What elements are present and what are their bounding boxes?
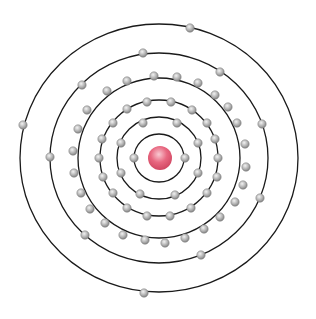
electron-shell-4 — [173, 73, 181, 81]
electron-shell-2 — [136, 190, 144, 198]
electron-shell-4 — [141, 236, 149, 244]
electron-shell-4 — [242, 163, 250, 171]
electron-shell-3 — [95, 154, 103, 162]
electron-shell-3 — [203, 189, 211, 197]
electron-shell-3 — [143, 98, 151, 106]
electron-shell-4 — [239, 181, 247, 189]
electron-shell-5 — [139, 49, 147, 57]
electron-shell-2 — [139, 119, 147, 127]
electron-shell-5 — [197, 251, 205, 259]
electron-shell-5 — [78, 81, 86, 89]
electron-shell-3 — [203, 119, 211, 127]
electron-shell-3 — [98, 135, 106, 143]
electron-shell-4 — [216, 213, 224, 221]
nucleus-sphere — [148, 146, 172, 170]
electron-shell-4 — [123, 77, 131, 85]
electron-shell-2 — [117, 139, 125, 147]
electron-shell-4 — [241, 140, 249, 148]
electron-shell-2 — [173, 119, 181, 127]
electron-shell-4 — [69, 147, 77, 155]
electron-shell-3 — [109, 119, 117, 127]
electron-shell-1 — [181, 154, 189, 162]
electron-shell-4 — [200, 225, 208, 233]
electron-shell-4 — [70, 169, 78, 177]
electron-shell-3 — [188, 106, 196, 114]
electron-shell-3 — [211, 135, 219, 143]
electron-shell-3 — [167, 98, 175, 106]
electron-shell-4 — [119, 231, 127, 239]
electron-shell-6 — [19, 121, 27, 129]
electron-shell-3 — [187, 204, 195, 212]
electron-shell-4 — [224, 103, 232, 111]
electron-shell-4 — [233, 119, 241, 127]
electron-shell-4 — [83, 106, 91, 114]
electron-shell-1 — [130, 154, 138, 162]
electron-shell-4 — [77, 189, 85, 197]
electron-shell-4 — [181, 234, 189, 242]
electron-shell-4 — [231, 198, 239, 206]
electron-shell-4 — [101, 219, 109, 227]
electron-shell-2 — [194, 139, 202, 147]
electrons — [19, 24, 266, 297]
electron-shell-3 — [123, 204, 131, 212]
electron-shell-3 — [214, 154, 222, 162]
electron-shell-4 — [86, 205, 94, 213]
electron-shell-3 — [109, 189, 117, 197]
electron-shell-3 — [213, 173, 221, 181]
nucleus — [148, 146, 172, 170]
electron-shell-4 — [211, 91, 219, 99]
electron-shell-5 — [258, 120, 266, 128]
electron-shell-6 — [140, 289, 148, 297]
electron-shell-3 — [99, 173, 107, 181]
electron-shell-3 — [166, 212, 174, 220]
electron-shell-3 — [123, 105, 131, 113]
electron-shell-2 — [117, 169, 125, 177]
electron-shell-5 — [46, 153, 54, 161]
bohr-atom-diagram — [0, 0, 316, 319]
electron-shell-2 — [194, 169, 202, 177]
electron-shell-5 — [256, 194, 264, 202]
electron-shell-5 — [81, 231, 89, 239]
electron-shell-4 — [74, 125, 82, 133]
electron-shell-4 — [161, 239, 169, 247]
electron-shell-4 — [150, 72, 158, 80]
electron-shell-5 — [216, 68, 224, 76]
electron-shell-4 — [194, 79, 202, 87]
electron-shell-6 — [186, 24, 194, 32]
electron-shell-3 — [143, 212, 151, 220]
electron-shell-4 — [103, 87, 111, 95]
electron-shell-2 — [171, 191, 179, 199]
